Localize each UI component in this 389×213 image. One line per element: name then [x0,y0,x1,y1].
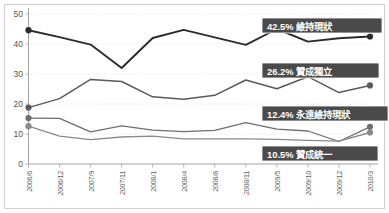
x-tick-label: 2009/10 [304,171,313,196]
series-start-point [25,115,31,121]
x-tick-label: 2007/11 [118,171,127,195]
y-tick-label: 30 [14,69,24,79]
series-callout: 10.5% 贊成統一 [262,146,378,161]
x-tick-label: 2007/9 [87,171,96,192]
callout-label: 10.5% 贊成統一 [267,149,333,160]
y-tick-label: 40 [14,39,24,49]
y-tick-label: 10 [14,129,24,139]
x-tick-label: 2008/1 [149,171,158,192]
series-end-point [367,124,373,130]
series-end-point [367,82,373,88]
x-tick-label: 2009/5 [273,171,282,192]
series-start-point [25,123,31,129]
callout-label: 42.5% 維持現狀 [267,21,333,32]
x-tick-label: 2010/3 [366,171,375,192]
series-callout: 42.5% 維持現狀 [262,18,382,33]
series-start-point [25,105,31,111]
series-end-point [367,33,373,39]
line-chart: 01020304050 2006/62006/122007/92007/1120… [0,0,389,213]
chart-container: 01020304050 2006/62006/122007/92007/1120… [0,0,389,213]
x-tick-label: 2008/11 [242,171,251,195]
x-tick-label: 2008/4 [180,171,189,192]
x-tick-label: 2006/6 [25,171,34,192]
callout-label: 26.2% 贊成獨立 [267,66,333,77]
callout-label: 12.4% 永遠維持現狀 [267,109,351,120]
y-tick-label: 20 [14,99,24,109]
x-tick-label: 2008/8 [211,171,220,192]
series-start-point [25,27,31,33]
series-callout: 26.2% 贊成獨立 [262,63,379,78]
y-tick-label: 50 [14,9,24,19]
x-tick-label: 2009/12 [335,171,344,196]
series-end-point [367,129,373,135]
series-callout: 12.4% 永遠維持現狀 [262,106,388,121]
x-tick-label: 2006/12 [56,171,65,196]
y-tick-label: 0 [18,159,23,169]
